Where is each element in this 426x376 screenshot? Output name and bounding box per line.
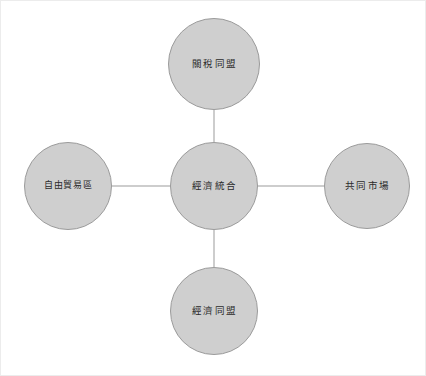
- node-customs-union-label: 關稅同盟: [191, 59, 238, 69]
- diagram-canvas: 關稅同盟 自由貿易區 經濟統合 共同市場 經濟同盟: [0, 0, 426, 376]
- node-economic-integration-label: 經濟統合: [191, 181, 238, 191]
- node-economic-union[interactable]: 經濟同盟: [170, 267, 258, 355]
- node-free-trade-area[interactable]: 自由貿易區: [24, 142, 112, 230]
- node-free-trade-area-label: 自由貿易區: [43, 181, 93, 191]
- node-common-market[interactable]: 共同市場: [324, 143, 410, 229]
- node-customs-union[interactable]: 關稅同盟: [168, 18, 260, 110]
- node-common-market-label: 共同市場: [344, 181, 391, 191]
- node-economic-integration[interactable]: 經濟統合: [170, 142, 258, 230]
- node-economic-union-label: 經濟同盟: [191, 306, 238, 316]
